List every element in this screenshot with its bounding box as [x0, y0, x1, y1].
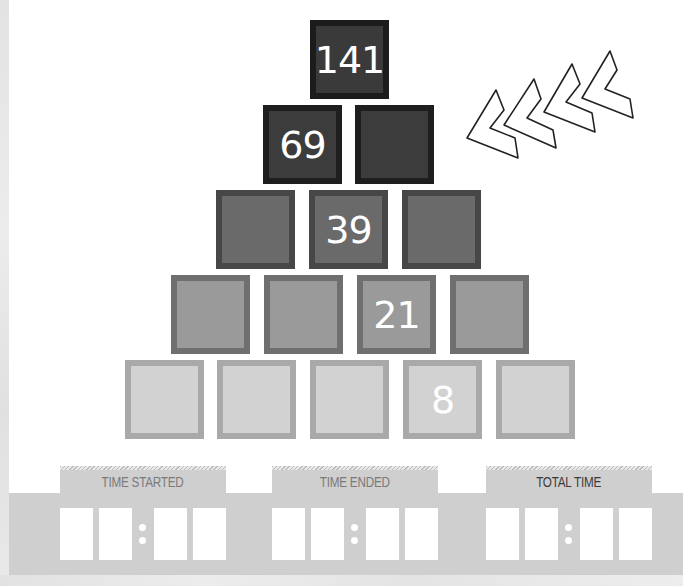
pyramid-cell-r5-c2[interactable] [217, 360, 296, 439]
timer-total-time: TOTAL TIME [486, 466, 652, 493]
pyramid-cell-r4-c3[interactable]: 21 [357, 275, 436, 354]
time-ended-digit-4[interactable] [405, 508, 438, 560]
time-started-digit-4[interactable] [193, 508, 226, 560]
total-time-digit-1[interactable] [486, 508, 519, 560]
total-time-digits [486, 508, 652, 560]
pyramid-cell-r2-c2[interactable] [355, 105, 434, 184]
pyramid-cell-r1-c1[interactable]: 141 [310, 20, 389, 99]
colon-separator [132, 508, 154, 560]
time-ended-digit-3[interactable] [366, 508, 399, 560]
timer-time-started: TIME STARTED [60, 466, 226, 493]
cell-value: 141 [315, 38, 385, 82]
pyramid-cell-r2-c1[interactable]: 69 [263, 105, 342, 184]
time-ended-digit-2[interactable] [311, 508, 344, 560]
colon-separator [558, 508, 580, 560]
pyramid-cell-r4-c1[interactable] [171, 275, 250, 354]
time-started-digits [60, 508, 226, 560]
total-time-digit-2[interactable] [525, 508, 558, 560]
pyramid-cell-r5-c4[interactable]: 8 [403, 360, 482, 439]
time-started-digit-2[interactable] [99, 508, 132, 560]
pyramid-cell-r3-c1[interactable] [216, 190, 295, 269]
chevron-arrows-icon [460, 50, 640, 180]
timer-label: TIME ENDED [320, 470, 390, 490]
timer-time-ended: TIME ENDED [272, 466, 438, 493]
timer-tab: TIME ENDED [272, 466, 438, 493]
colon-separator [344, 508, 366, 560]
time-started-digit-3[interactable] [154, 508, 187, 560]
pyramid-cell-r4-c4[interactable] [450, 275, 529, 354]
pyramid-cell-r5-c5[interactable] [496, 360, 575, 439]
timer-tab: TOTAL TIME [486, 466, 652, 493]
pyramid-cell-r4-c2[interactable] [264, 275, 343, 354]
total-time-digit-3[interactable] [580, 508, 613, 560]
cell-value: 8 [431, 378, 454, 422]
time-ended-digits [272, 508, 438, 560]
timer-label: TOTAL TIME [537, 470, 602, 490]
bottom-edge-strip [0, 575, 683, 586]
timer-label: TIME STARTED [102, 470, 184, 490]
pyramid-cell-r3-c3[interactable] [402, 190, 481, 269]
cell-value: 21 [373, 293, 419, 337]
cell-value: 39 [325, 208, 371, 252]
pyramid-cell-r5-c1[interactable] [125, 360, 204, 439]
total-time-digit-4[interactable] [619, 508, 652, 560]
left-edge-strip [0, 0, 9, 586]
timer-tab: TIME STARTED [60, 466, 226, 493]
time-started-digit-1[interactable] [60, 508, 93, 560]
pyramid-cell-r3-c2[interactable]: 39 [309, 190, 388, 269]
cell-value: 69 [279, 123, 325, 167]
pyramid-cell-r5-c3[interactable] [310, 360, 389, 439]
time-ended-digit-1[interactable] [272, 508, 305, 560]
